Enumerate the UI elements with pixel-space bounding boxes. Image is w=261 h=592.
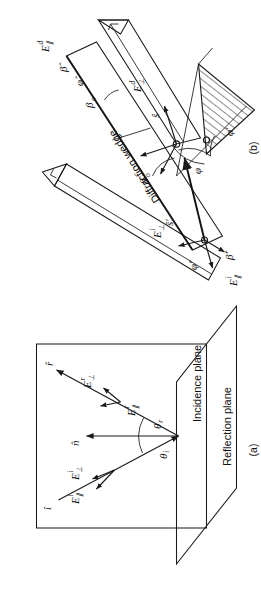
label-E-parallel-diffracted: E ∥ d [36,40,53,53]
label-beta-o: β o [82,97,97,109]
E-perp-i-sub: ⊥ [74,466,83,473]
E-perp-i-base: E [68,473,80,481]
label-E-parallel-reflected: E ∥ r [122,404,139,417]
E-par-i-sub-b: ∥ [232,274,241,279]
beta-o-arc [104,90,118,100]
label-reflection-plane: Reflection plane [220,387,232,466]
E-par-d-sup: d [36,41,45,45]
label-beta-hat: β̂ [56,62,68,73]
E-perp-d-sub: ⊥ [136,78,145,85]
E-par-i-sub: ∥ [74,492,83,497]
theta-r-sub: r [156,420,165,423]
panel-a-svg: E ∥ i E ⊥ i E ∥ r E [0,296,261,592]
label-s-hat: ŝ [148,113,160,118]
label-diffraction-wedge: Diffraction wedge [105,128,161,206]
label-E-parallel-incident-b: E ∥ i [224,274,241,287]
panel-a-caption: (a) [246,444,258,457]
E-perp-d-base: E [130,85,142,93]
label-E-perp-reflected: E ⊥ r [78,374,95,389]
E-par-i-base: E [68,497,80,505]
label-E-perp-incident: E ⊥ i [66,466,83,481]
theta-r-base: θ [150,423,162,429]
beta-o-prime-base: β [136,178,148,185]
beta-o-base: β [82,102,94,109]
theta-r-arc [138,418,143,436]
label-phi: φ [190,168,202,174]
label-theta-i: θ i [156,451,171,459]
label-phi-hat: φ̂ [72,75,84,86]
label-beta-hat-prime: β̂′ [222,250,234,261]
E-par-d-base: E [38,45,50,53]
beta-o-sub: o [88,97,97,101]
E-par-i-sup-b: i [224,277,233,279]
theta-i-base: θ [156,453,168,459]
E-par-r-sup: r [122,406,131,409]
panel-b-caption: (b) [246,142,258,155]
E-perp-d-sup: d [128,81,137,85]
label-phi-prime: φ′ [222,127,234,136]
E-perp-i-sup: i [66,471,75,473]
label-i-hat: î [40,506,52,510]
E-perp-r-base: E [80,381,92,389]
figure-root: E ∥ i E ⊥ i E ∥ r E [0,0,261,592]
label-E-parallel-incident: E ∥ i [66,492,83,505]
E-perp-r-sub: ⊥ [86,374,95,381]
panel-b-diffraction: Diffraction wedge E ∥ d E ⊥ d E ∥ i [0,0,261,296]
beta-o-prime-sub: o [142,173,151,177]
theta-i-sub: i [162,451,171,453]
label-phi-hat-prime: φ̂′ [186,259,198,270]
panel-b-svg: Diffraction wedge E ∥ d E ⊥ d E ∥ i [0,0,261,296]
E-par-i-sup: i [66,495,75,497]
label-s-prime-hat: ŝ′ [162,219,174,226]
E-par-d-sub: ∥ [44,40,53,45]
label-incidence-plane: Incidence plane [190,345,202,422]
diffracted-ray-tube [98,20,200,144]
figure-stage: E ∥ i E ⊥ i E ∥ r E [0,0,261,592]
incident-field-vectors [92,470,114,489]
E-perp-r-sup: r [78,378,87,381]
E-par-r-sub: ∥ [130,404,139,409]
E-perp-i-sup-b: i [148,229,157,231]
beta-o-prime-arc [152,158,174,176]
E-par-i-base-b: E [226,279,238,287]
label-E-perp-diffracted: E ⊥ d [128,78,145,93]
phi-arc [178,148,210,156]
wedge-cross-section-hatched [198,48,254,154]
E-perp-i-base-b: E [150,231,162,239]
label-r-hat: r̂ [42,361,54,366]
label-n-hat: n̂ [68,440,80,446]
theta-i-arc [138,436,142,453]
E-par-r-base: E [124,409,136,417]
panel-a-reflection: E ∥ i E ⊥ i E ∥ r E [0,296,261,592]
